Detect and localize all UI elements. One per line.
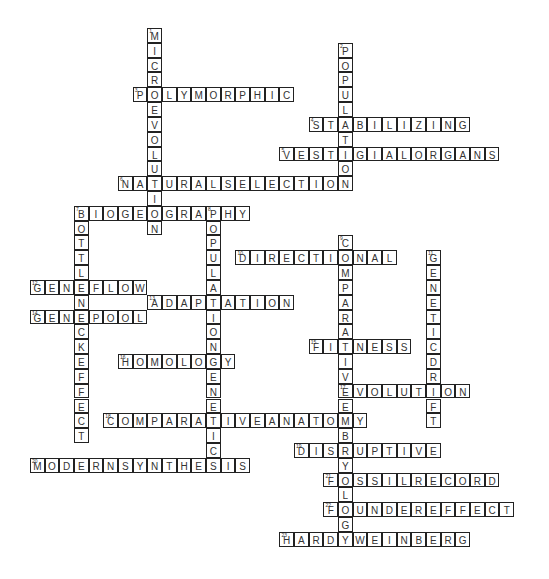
crossword-cell[interactable]: V5 (279, 147, 294, 162)
crossword-cell[interactable]: L (382, 384, 397, 399)
crossword-cell[interactable]: K (74, 339, 89, 354)
crossword-cell[interactable]: P8 (206, 206, 221, 221)
crossword-cell[interactable]: N (206, 384, 221, 399)
crossword-cell[interactable]: O (147, 206, 162, 221)
crossword-cell[interactable]: N (103, 458, 118, 473)
crossword-cell[interactable]: C (74, 324, 89, 339)
crossword-cell[interactable]: C (426, 339, 441, 354)
crossword-cell[interactable]: E (191, 458, 206, 473)
crossword-cell[interactable]: O (338, 502, 353, 517)
crossword-cell[interactable]: U (206, 250, 221, 265)
crossword-cell[interactable]: T (411, 384, 426, 399)
crossword-cell[interactable]: I (221, 413, 236, 428)
crossword-cell[interactable]: R (411, 502, 426, 517)
crossword-cell[interactable]: O (265, 295, 280, 310)
crossword-cell[interactable]: M1 (147, 28, 162, 43)
crossword-cell[interactable]: S (206, 458, 221, 473)
crossword-cell[interactable]: T (294, 176, 309, 191)
crossword-cell[interactable]: D19 (294, 443, 309, 458)
crossword-cell[interactable]: L (74, 265, 89, 280)
crossword-cell[interactable]: V (411, 443, 426, 458)
crossword-cell[interactable]: M20 (30, 458, 45, 473)
crossword-cell[interactable]: E (45, 280, 60, 295)
crossword-cell[interactable]: O (206, 87, 221, 102)
crossword-cell[interactable]: I (367, 147, 382, 162)
crossword-cell[interactable]: C (441, 473, 456, 488)
crossword-cell[interactable]: E (265, 176, 280, 191)
crossword-cell[interactable]: P (191, 295, 206, 310)
crossword-cell[interactable]: E (426, 502, 441, 517)
crossword-cell[interactable]: H23 (279, 532, 294, 547)
crossword-cell[interactable]: O (441, 384, 456, 399)
crossword-cell[interactable]: T (74, 250, 89, 265)
crossword-cell[interactable]: M (338, 265, 353, 280)
crossword-cell[interactable]: L (133, 310, 148, 325)
crossword-cell[interactable]: I (397, 117, 412, 132)
crossword-cell[interactable]: I (309, 443, 324, 458)
crossword-cell[interactable]: N (353, 339, 368, 354)
crossword-cell[interactable]: N (147, 458, 162, 473)
crossword-cell[interactable]: Y (338, 458, 353, 473)
crossword-cell[interactable]: C18 (103, 413, 118, 428)
crossword-cell[interactable]: V (235, 413, 250, 428)
crossword-cell[interactable]: M (147, 354, 162, 369)
crossword-cell[interactable]: O (206, 324, 221, 339)
crossword-cell[interactable]: A (191, 413, 206, 428)
crossword-cell[interactable]: P (367, 443, 382, 458)
crossword-cell[interactable]: S (397, 339, 412, 354)
crossword-cell[interactable]: H16 (118, 354, 133, 369)
crossword-cell[interactable]: I (147, 191, 162, 206)
crossword-cell[interactable]: O (103, 310, 118, 325)
crossword-cell[interactable]: I (221, 458, 236, 473)
crossword-cell[interactable]: E (250, 413, 265, 428)
crossword-cell[interactable]: M (191, 87, 206, 102)
crossword-cell[interactable]: N (279, 295, 294, 310)
crossword-cell[interactable]: I (367, 117, 382, 132)
crossword-cell[interactable]: P (338, 72, 353, 87)
crossword-cell[interactable]: N (470, 147, 485, 162)
crossword-cell[interactable]: O (338, 161, 353, 176)
crossword-cell[interactable]: G (206, 354, 221, 369)
crossword-cell[interactable]: T (426, 310, 441, 325)
crossword-cell[interactable]: A (191, 206, 206, 221)
crossword-cell[interactable]: P (147, 413, 162, 428)
crossword-cell[interactable]: T (323, 147, 338, 162)
crossword-cell[interactable]: N (279, 413, 294, 428)
crossword-cell[interactable]: O (133, 354, 148, 369)
crossword-cell[interactable]: B (338, 428, 353, 443)
crossword-cell[interactable]: I (382, 473, 397, 488)
crossword-cell[interactable]: S (323, 443, 338, 458)
crossword-cell[interactable]: O (206, 221, 221, 236)
crossword-cell[interactable]: H (250, 87, 265, 102)
crossword-cell[interactable]: R (177, 176, 192, 191)
crossword-cell[interactable]: L (338, 487, 353, 502)
crossword-cell[interactable]: G (338, 517, 353, 532)
crossword-cell[interactable]: R (177, 413, 192, 428)
crossword-cell[interactable]: P2 (338, 43, 353, 58)
crossword-cell[interactable]: T (74, 428, 89, 443)
crossword-cell[interactable]: I (265, 87, 280, 102)
crossword-cell[interactable]: Y (133, 458, 148, 473)
crossword-cell[interactable]: N (338, 176, 353, 191)
crossword-cell[interactable]: T (147, 176, 162, 191)
crossword-cell[interactable]: E (397, 502, 412, 517)
crossword-cell[interactable]: I (426, 324, 441, 339)
crossword-cell[interactable]: S4 (309, 117, 324, 132)
crossword-cell[interactable]: O (103, 206, 118, 221)
crossword-cell[interactable]: S (353, 473, 368, 488)
crossword-cell[interactable]: A (338, 295, 353, 310)
crossword-cell[interactable]: U (147, 161, 162, 176)
crossword-cell[interactable]: T (323, 117, 338, 132)
crossword-cell[interactable]: C (206, 443, 221, 458)
crossword-cell[interactable]: E (279, 250, 294, 265)
crossword-cell[interactable]: D (485, 473, 500, 488)
crossword-cell[interactable]: R (426, 147, 441, 162)
crossword-cell[interactable]: G (162, 206, 177, 221)
crossword-cell[interactable]: F (426, 399, 441, 414)
crossword-cell[interactable]: Z (411, 117, 426, 132)
crossword-cell[interactable]: O (323, 176, 338, 191)
crossword-cell[interactable]: A (265, 413, 280, 428)
crossword-cell[interactable]: O (191, 354, 206, 369)
crossword-cell[interactable]: N (353, 250, 368, 265)
crossword-cell[interactable]: U (397, 384, 412, 399)
